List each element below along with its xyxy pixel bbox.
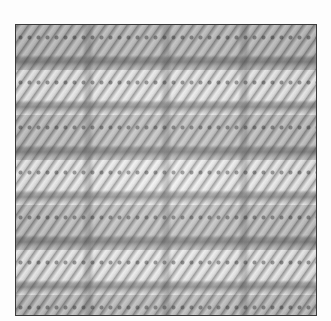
stitch-sample-photo	[15, 24, 317, 316]
photo-shading	[16, 25, 316, 315]
